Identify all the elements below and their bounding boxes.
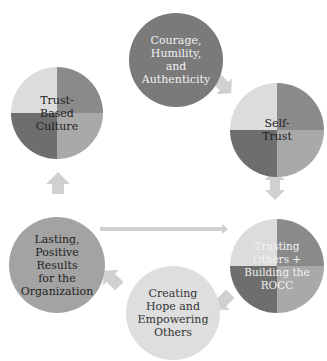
arrow-lasting-results-to-trust-culture bbox=[46, 172, 70, 194]
node-courage: Courage, Humility, and Authenticity bbox=[129, 13, 223, 107]
node-creating-hope-label: Creating Hope and Empowering Others bbox=[138, 287, 209, 339]
node-trust-culture: Trust- Based Culture bbox=[11, 67, 103, 159]
node-self-trust: Self- Trust bbox=[230, 83, 324, 177]
node-lasting-results-label: Lasting, Positive Results for the Organi… bbox=[21, 233, 93, 298]
node-trusting-others-label: Trusting Others + Building the ROCC bbox=[244, 240, 309, 292]
node-courage-label: Courage, Humility, and Authenticity bbox=[142, 34, 210, 86]
node-creating-hope: Creating Hope and Empowering Others bbox=[126, 266, 220, 360]
node-self-trust-label: Self- Trust bbox=[262, 117, 292, 143]
arrow-lasting-results-to-trusting-others bbox=[100, 224, 228, 234]
node-trusting-others: Trusting Others + Building the ROCC bbox=[230, 219, 324, 313]
node-trust-culture-label: Trust- Based Culture bbox=[36, 94, 78, 133]
node-lasting-results: Lasting, Positive Results for the Organi… bbox=[9, 217, 105, 313]
